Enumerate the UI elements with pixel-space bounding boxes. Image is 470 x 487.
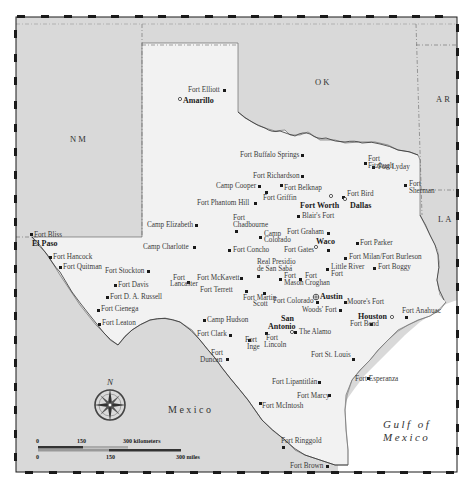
fort-label: Chadbourne [233,221,268,229]
fort-label: Fort Cienega [101,305,139,313]
fort-label: Fort Colorado [273,297,314,305]
fort-label: Fort McIntosh [262,402,304,410]
fort-label: Fort Marcy [297,392,330,400]
scale-mi-mid: 150 [106,454,115,460]
fort-label: Fort Boggy [378,263,411,271]
fort-label: Fort Quitman [63,263,102,271]
fort-label: Blair's Fort [302,212,334,220]
label-louisiana: LA [438,214,453,224]
fort-label: Fort [331,270,343,278]
fort-label: Fort Bliss [34,231,62,239]
fort-label: Fort Griffin [263,194,297,202]
fort-label: Fort Ringgold [281,437,322,445]
fort-label: Fort Phantom Hill [197,199,249,207]
fort-label: Fort Parker [360,239,393,247]
fort-label: Fort Bend [350,320,379,328]
fort-label: Fort Buffalo Springs [240,151,300,159]
fort-label: Fort Terrett [200,286,233,294]
fort-label: Fort Lyday [378,163,410,171]
fort-label: Fort D. A. Russell [110,293,162,301]
fort-label: Sherman [409,187,435,195]
fort-label: Fort Esperanza [355,375,399,383]
fort-label: Fort Anahuac [402,307,441,315]
fort-label: Fort Leaton [102,319,136,327]
scale-mi-zero: 0 [36,454,39,460]
label-gulf-line2: Mexico [382,431,430,443]
city-label: Waco [316,237,335,246]
city-label: Amarillo [183,96,214,105]
fort-label: Lincoln [264,341,287,349]
city-label: Fort Worth [300,201,340,210]
texas-forts-map: NM OK AR LA Mexico Gulf of Mexico [0,0,470,487]
scale-km-mid: 150 [77,438,86,444]
fort-label: Woods' Fort [302,306,337,314]
city-label: Austin [320,292,343,301]
fort-label: Fort Stockton [105,267,145,275]
fort-label: Fort Clark [197,330,227,338]
fort-label: Fort Bird [347,190,374,198]
city-label: Dallas [350,201,371,210]
fort-label: Lancaster [170,280,199,288]
scale-km-end: 300 kilometers [123,438,161,444]
fort-label: Fort McKavett [197,274,240,282]
fort-label: Camp Charlotte [143,243,189,251]
austin-capital-icon [313,294,319,300]
fort-label: Fort St. Louis [311,351,351,359]
fort-label: Fort Brown [290,462,324,470]
fort-label: Colorado [264,236,291,244]
fort-label: Fort Graham [287,228,324,236]
fort-label: Inge [247,343,260,351]
fort-label: Fort Hancock [53,253,93,261]
fort-label: Fort Concho [233,246,270,254]
compass-north-label: N [106,377,114,387]
city-label: Antonio [268,322,296,331]
fort-label: Fort Belknap [284,184,322,192]
fort-label: Croghan [305,279,330,287]
city-label: El Paso [32,239,58,248]
fort-label: Fort Davis [118,281,149,289]
scale-mi-end: 300 miles [176,454,200,460]
fort-label: Camp Hudson [207,316,249,324]
label-oklahoma: OK [315,77,331,87]
fort-label: Fort Elliott [188,86,220,94]
fort-label: Scott [253,300,268,308]
label-gulf-line1: Gulf of [383,418,431,430]
fort-label: Fort Gates [284,246,314,254]
label-new-mexico: NM [70,134,88,144]
fort-label: Fort Milan/Fort Burleson [349,253,422,261]
fort-label: Camp Elizabeth [147,221,194,229]
fort-label: Fort Richardson [253,172,300,180]
scale-km-zero: 0 [36,438,39,444]
label-arkansas: AR [436,94,452,104]
fort-label: Moore's Fort [347,298,384,306]
fort-label: Fort Lipantitlán [272,378,318,386]
fort-label: Duncan [200,356,223,364]
fort-label: Mason [284,279,304,287]
label-mexico: Mexico [168,404,214,415]
fort-label: Camp Cooper [216,182,257,190]
fort-label: The Alamo [299,328,332,336]
